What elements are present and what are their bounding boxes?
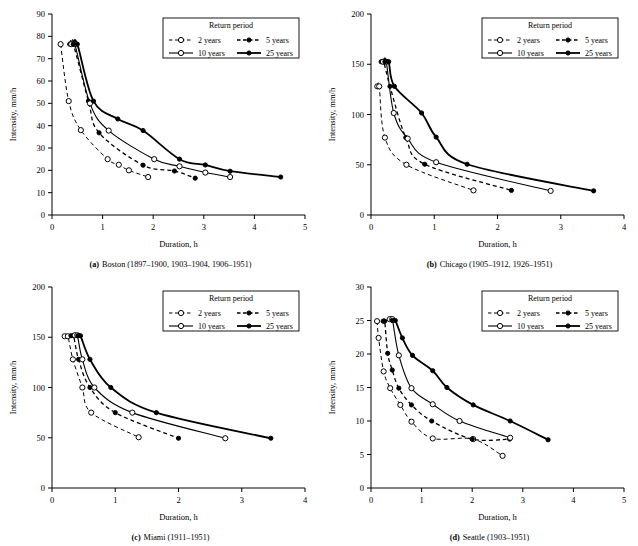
y-tick-label: 50	[37, 98, 46, 108]
panel-caption-b: (b)Chicago (1905–1912, 1926–1951)	[427, 260, 553, 269]
legend-entry-label: 25 years	[585, 322, 612, 331]
y-axis-ticks-c: 050100150200	[32, 282, 52, 493]
y-tick-label: 30	[356, 282, 365, 292]
x-tick-label: 0	[369, 222, 373, 232]
series-a-3	[71, 40, 283, 179]
y-tick-label: 0	[41, 210, 45, 220]
y-axis-title-c: Intensity, mm/h	[8, 360, 18, 414]
x-tick-label: 1	[113, 495, 117, 505]
x-axis-ticks-a: 012345	[50, 215, 307, 232]
legend-entry-label: 5 years	[585, 36, 608, 45]
series-b-2	[380, 58, 553, 194]
legend-entry-label: 25 years	[266, 49, 293, 58]
legend-entry-label: 2 years	[517, 309, 540, 318]
chart-panel-a: 0102030405060708090012345Duration, hInte…	[0, 0, 319, 273]
y-tick-label: 25	[356, 316, 365, 326]
x-tick-label: 0	[369, 495, 373, 505]
legend-a: Return period2 years5 years10 years25 ye…	[163, 18, 299, 58]
x-tick-label: 2	[151, 222, 155, 232]
series-a-0	[58, 42, 151, 180]
legend-entry-label: 2 years	[517, 36, 540, 45]
y-tick-label: 200	[351, 9, 364, 19]
y-tick-label: 20	[356, 349, 365, 359]
x-tick-label: 3	[240, 495, 244, 505]
x-axis-ticks-d: 012345	[369, 488, 626, 505]
legend-entry-label: 25 years	[266, 322, 293, 331]
chart-svg-c: 05010015020001234Duration, hIntensity, m…	[0, 273, 319, 546]
panel-caption-c: (c)Miami (1911–1951)	[132, 533, 210, 542]
chart-svg-a: 0102030405060708090012345Duration, hInte…	[0, 0, 319, 273]
legend-entry-label: 5 years	[585, 309, 608, 318]
y-tick-label: 150	[351, 59, 364, 69]
y-axis-ticks-a: 0102030405060708090	[37, 9, 53, 220]
y-tick-label: 40	[37, 121, 46, 131]
x-tick-label: 1	[100, 222, 104, 232]
x-tick-label: 3	[559, 222, 563, 232]
y-tick-label: 100	[32, 383, 45, 393]
legend-d: Return period2 years5 years10 years25 ye…	[482, 291, 618, 331]
y-tick-label: 50	[356, 160, 365, 170]
y-tick-label: 0	[360, 210, 364, 220]
y-tick-label: 150	[32, 332, 45, 342]
legend-entry-label: 25 years	[585, 49, 612, 58]
x-axis-title-d: Duration, h	[478, 512, 517, 522]
y-tick-label: 200	[32, 282, 45, 292]
y-tick-label: 30	[37, 143, 46, 153]
y-tick-label: 0	[41, 483, 45, 493]
y-axis-ticks-d: 051015202530	[356, 282, 372, 493]
y-tick-label: 5	[360, 450, 364, 460]
x-axis-ticks-c: 01234	[50, 488, 308, 505]
y-tick-label: 20	[37, 165, 46, 175]
x-tick-label: 2	[176, 495, 180, 505]
chart-panel-d: 051015202530012345Duration, hIntensity, …	[319, 273, 638, 546]
y-tick-label: 50	[37, 433, 46, 443]
chart-svg-d: 051015202530012345Duration, hIntensity, …	[319, 273, 638, 546]
legend-entry-label: 10 years	[198, 322, 225, 331]
x-tick-label: 4	[252, 222, 257, 232]
y-tick-label: 15	[356, 383, 365, 393]
x-tick-label: 1	[419, 495, 423, 505]
legend-entry-label: 2 years	[198, 36, 221, 45]
y-tick-label: 10	[356, 416, 365, 426]
figure-intensity-duration-curves: 0102030405060708090012345Duration, hInte…	[0, 0, 638, 546]
y-tick-label: 90	[37, 9, 46, 19]
legend-title: Return period	[209, 294, 253, 303]
x-tick-label: 4	[303, 495, 308, 505]
y-axis-title-d: Intensity, mm/h	[327, 360, 337, 414]
series-d-3	[390, 318, 550, 441]
legend-c: Return period2 years5 years10 years25 ye…	[163, 291, 299, 331]
legend-entry-label: 2 years	[198, 309, 221, 318]
legend-entry-label: 5 years	[266, 36, 289, 45]
x-tick-label: 4	[571, 495, 576, 505]
y-axis-ticks-b: 050100150200	[351, 9, 371, 220]
chart-panel-b: 05010015020001234Duration, hIntensity, m…	[319, 0, 638, 273]
series-c-3	[76, 334, 273, 441]
x-tick-label: 5	[622, 495, 626, 505]
x-tick-label: 3	[202, 222, 206, 232]
panel-caption-d: (d)Seattle (1903–1951)	[450, 533, 530, 542]
y-tick-label: 10	[37, 188, 46, 198]
legend-entry-label: 10 years	[517, 49, 544, 58]
y-tick-label: 100	[351, 110, 364, 120]
y-axis-title-a: Intensity, mm/h	[8, 87, 18, 141]
y-axis-title-b: Intensity, mm/h	[327, 87, 337, 141]
legend-entry-label: 10 years	[198, 49, 225, 58]
x-tick-label: 2	[470, 495, 474, 505]
legend-b: Return period2 years5 years10 years25 ye…	[482, 18, 618, 58]
panel-caption-a: (a)Boston (1897–1900, 1903–1904, 1906–19…	[90, 260, 252, 269]
x-tick-label: 0	[50, 495, 54, 505]
legend-title: Return period	[528, 294, 572, 303]
chart-svg-b: 05010015020001234Duration, hIntensity, m…	[319, 0, 638, 273]
legend-entry-label: 10 years	[517, 322, 544, 331]
x-tick-label: 1	[432, 222, 436, 232]
y-tick-label: 0	[360, 483, 364, 493]
x-tick-label: 5	[303, 222, 307, 232]
legend-title: Return period	[528, 21, 572, 30]
y-tick-label: 70	[37, 54, 46, 64]
legend-entry-label: 5 years	[266, 309, 289, 318]
x-tick-label: 4	[622, 222, 627, 232]
x-axis-title-a: Duration, h	[159, 239, 198, 249]
x-tick-label: 0	[50, 222, 54, 232]
series-b-3	[383, 60, 596, 193]
series-d-2	[387, 316, 513, 440]
